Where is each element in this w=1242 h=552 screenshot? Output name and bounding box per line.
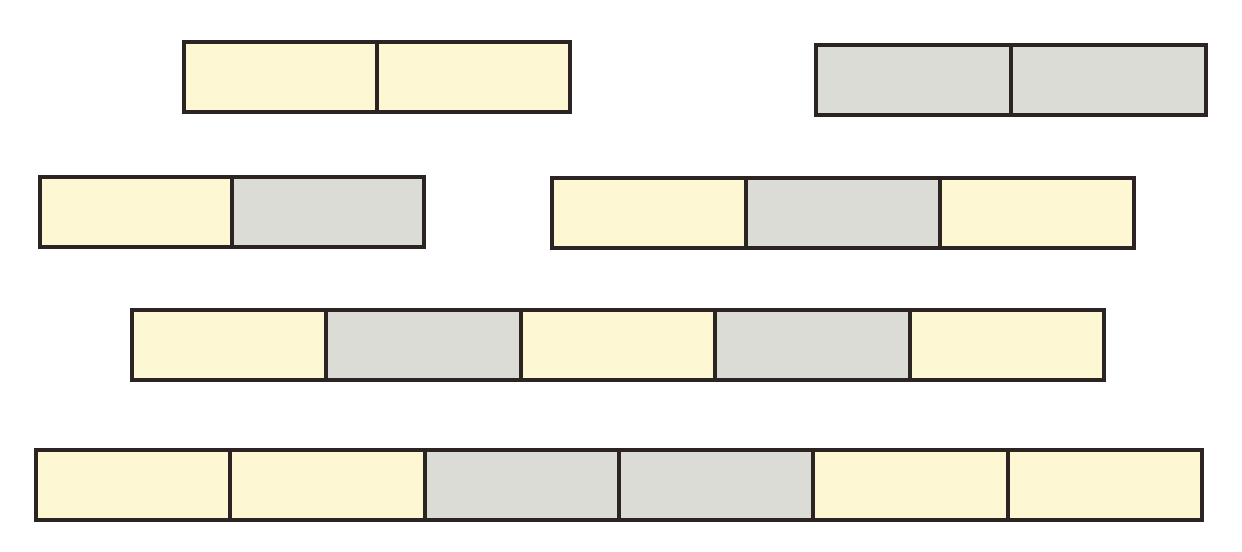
gray-segment bbox=[427, 452, 621, 518]
gray-segment bbox=[621, 452, 815, 518]
yellow-segment bbox=[554, 180, 748, 246]
bar-yellow-gray-yellow bbox=[550, 176, 1136, 250]
bar-five-alternating bbox=[130, 308, 1106, 382]
yellow-segment bbox=[815, 452, 1009, 518]
gray-segment bbox=[748, 180, 942, 246]
bar-two-gray bbox=[814, 43, 1208, 117]
gray-segment bbox=[717, 312, 911, 378]
yellow-segment bbox=[134, 312, 328, 378]
yellow-segment bbox=[42, 179, 234, 245]
yellow-segment bbox=[38, 452, 232, 518]
gray-segment bbox=[328, 312, 522, 378]
gray-segment bbox=[234, 179, 422, 245]
yellow-segment bbox=[912, 312, 1102, 378]
yellow-segment bbox=[523, 312, 717, 378]
gray-segment bbox=[1013, 47, 1204, 113]
bar-two-yellow bbox=[182, 40, 572, 114]
yellow-segment bbox=[942, 180, 1132, 246]
yellow-segment bbox=[186, 44, 379, 110]
yellow-segment bbox=[232, 452, 426, 518]
yellow-segment bbox=[1010, 452, 1200, 518]
bar-yellow-gray bbox=[38, 175, 426, 249]
bar-six-segments bbox=[34, 448, 1204, 522]
yellow-segment bbox=[379, 44, 568, 110]
gray-segment bbox=[818, 47, 1013, 113]
